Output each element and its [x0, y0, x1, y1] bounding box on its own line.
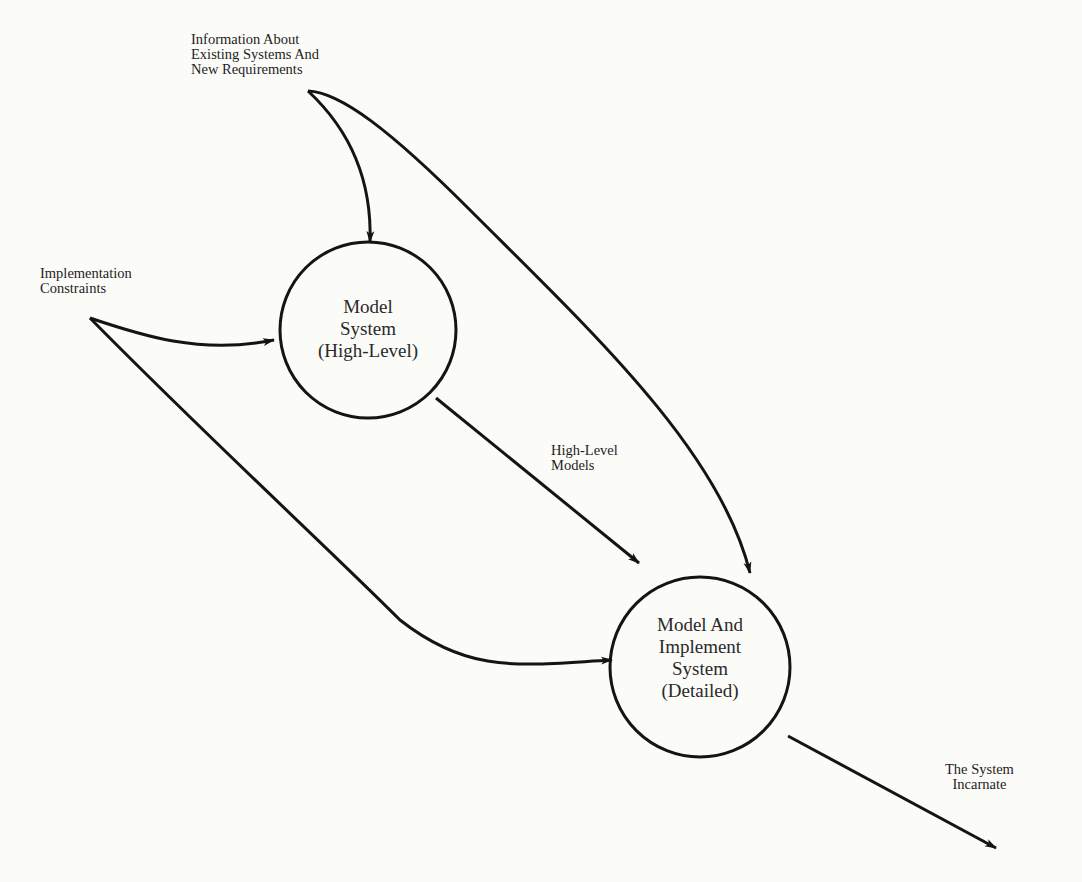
node-line: (High-Level) [288, 340, 448, 362]
node-line: Implement [620, 636, 780, 658]
input-label-information: Information About Existing Systems And N… [191, 32, 319, 77]
edge-constraints-to-model-system [90, 318, 274, 345]
edge-system-incarnate [788, 736, 996, 848]
label-line: Information About [191, 32, 319, 47]
label-line: Incarnate [945, 777, 1014, 792]
flow-label-high-level-models: High-Level Models [551, 443, 618, 473]
node-model-system-high-level: Model System (High-Level) [288, 296, 448, 362]
label-line: Constraints [40, 281, 132, 296]
label-line: New Requirements [191, 62, 319, 77]
flow-label-system-incarnate: The System Incarnate [945, 762, 1014, 792]
diagram-graphics [0, 0, 1082, 882]
label-line: Existing Systems And [191, 47, 319, 62]
diagram-canvas: Information About Existing Systems And N… [0, 0, 1082, 882]
edge-high-level-models [436, 398, 639, 563]
node-line: System [620, 658, 780, 680]
input-label-constraints: Implementation Constraints [40, 266, 132, 296]
node-line: System [288, 318, 448, 340]
node-line: Model [288, 296, 448, 318]
label-line: Models [551, 458, 618, 473]
node-line: Model And [620, 614, 780, 636]
node-model-and-implement-system-detailed: Model And Implement System (Detailed) [620, 614, 780, 702]
label-line: High-Level [551, 443, 618, 458]
label-line: Implementation [40, 266, 132, 281]
node-line: (Detailed) [620, 680, 780, 702]
edge-constraints-to-model-and-implement [90, 318, 612, 664]
label-line: The System [945, 762, 1014, 777]
